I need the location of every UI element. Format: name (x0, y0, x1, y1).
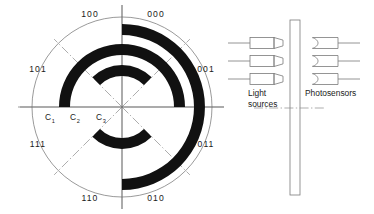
sector-code-label-111: 111 (30, 139, 46, 149)
photosensor-face-3 (312, 74, 318, 85)
track-label-base-c3: C (96, 112, 102, 122)
sector-code-label-110: 110 (82, 193, 99, 203)
light-source-2 (228, 56, 283, 67)
diagram-labels: 000001011010110111101100C1C2C3Lightsourc… (29, 9, 356, 203)
photosensor-body-2 (313, 56, 338, 67)
photosensor-body-3 (313, 74, 338, 85)
optical-shaft-encoder-diagram: 000001011010110111101100C1C2C3Lightsourc… (0, 0, 374, 214)
photosensor-3 (312, 74, 360, 85)
track-label-subscript-c1: 1 (52, 118, 55, 124)
sector-code-label-010: 010 (147, 193, 165, 203)
light-source-1 (228, 38, 283, 49)
light-source-nose-3 (274, 74, 283, 85)
light-source-3 (228, 74, 283, 85)
track-label-base-c2: C (70, 112, 76, 122)
sector-code-label-101: 101 (29, 64, 47, 74)
sector-code-label-001: 001 (197, 64, 215, 74)
track-label-subscript-c3: 3 (103, 118, 106, 124)
light-source-nose-2 (274, 56, 283, 67)
sector-code-label-000: 000 (147, 9, 165, 19)
track-label-c2: C2 (70, 112, 80, 124)
track-label-base-c1: C (45, 112, 51, 122)
light-sources-label-line-1: Light (248, 88, 267, 98)
photosensor-1 (312, 38, 360, 49)
sector-code-label-011: 011 (198, 139, 215, 149)
light-source-body-3 (250, 74, 274, 85)
photosensors-label-line-1: Photosensors (305, 88, 356, 98)
encoder-disk-edge-view (290, 20, 300, 195)
track-label-c3: C3 (96, 112, 106, 124)
photosensor-face-2 (312, 56, 318, 67)
light-source-body-2 (250, 56, 274, 67)
binary-coded-encoder-disk (18, 5, 224, 209)
light-sources-label-line-2: sources (248, 99, 277, 109)
photosensor-2 (312, 56, 360, 67)
track-label-subscript-c2: 2 (77, 118, 80, 124)
light-source-body-1 (250, 38, 274, 49)
photosensor-body-1 (313, 38, 338, 49)
track-label-c1: C1 (45, 112, 55, 124)
light-source-nose-1 (274, 38, 283, 49)
encoder-figure-container: 000001011010110111101100C1C2C3Lightsourc… (0, 0, 374, 214)
sector-code-label-100: 100 (81, 9, 99, 19)
photosensor-face-1 (312, 38, 318, 49)
